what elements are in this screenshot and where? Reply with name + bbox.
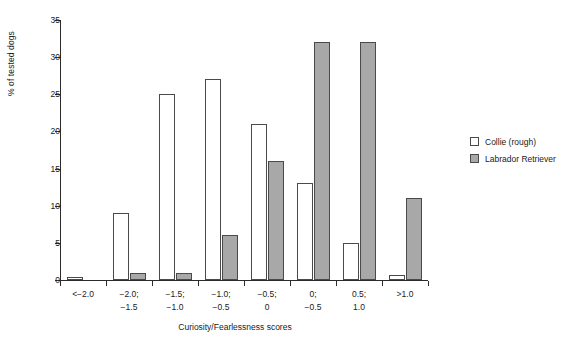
y-axis-tick-label: 0 <box>34 275 60 285</box>
y-axis-tick-label: 20 <box>34 126 60 136</box>
x-axis-tick <box>336 281 337 286</box>
x-axis-tick <box>290 281 291 286</box>
bar <box>205 79 221 280</box>
x-axis-category-label-line: >1.0 <box>375 288 435 301</box>
x-axis-tick <box>106 281 107 286</box>
y-axis-title: % of tested dogs <box>6 0 16 96</box>
plot-area <box>60 20 428 280</box>
legend-item: Labrador Retriever <box>470 150 556 167</box>
bar <box>251 124 267 280</box>
x-axis-category-label-line: 1.0 <box>329 301 389 314</box>
bar <box>314 42 330 280</box>
legend-swatch-labrador <box>470 154 479 163</box>
legend-label: Collie (rough) <box>485 137 536 147</box>
bar <box>176 273 192 280</box>
bar <box>67 277 83 280</box>
bar <box>406 198 422 280</box>
legend-item: Collie (rough) <box>470 133 556 150</box>
y-axis-tick-label: 10 <box>34 201 60 211</box>
chart-legend: Collie (rough)Labrador Retriever <box>470 133 556 167</box>
bar <box>222 235 238 280</box>
bar <box>113 213 129 280</box>
x-axis-tick <box>198 281 199 286</box>
y-axis-tick-label: 25 <box>34 89 60 99</box>
y-axis-title-text: % of tested dogs <box>6 0 16 96</box>
x-axis-tick <box>382 281 383 286</box>
x-axis-tick <box>152 281 153 286</box>
y-axis-tick-label: 35 <box>34 15 60 25</box>
bar <box>130 273 146 280</box>
x-axis-category-label: >1.0 <box>375 288 435 301</box>
bar <box>389 275 405 280</box>
bar <box>343 243 359 280</box>
x-axis-tick <box>60 281 61 286</box>
legend-swatch-collie <box>470 137 479 146</box>
x-axis-tick <box>244 281 245 286</box>
x-axis-title: Curiosity/Fearlessness scores <box>0 322 470 332</box>
x-axis-tick <box>428 281 429 286</box>
legend-label: Labrador Retriever <box>485 154 556 164</box>
y-axis-tick-label: 30 <box>34 52 60 62</box>
chart-figure: % of tested dogs 05101520253035 <−2.0−2.… <box>0 0 582 342</box>
bar <box>297 183 313 280</box>
y-axis-tick-label: 15 <box>34 164 60 174</box>
y-axis-tick-label: 5 <box>34 238 60 248</box>
bar <box>360 42 376 280</box>
bar <box>268 161 284 280</box>
bar <box>159 94 175 280</box>
